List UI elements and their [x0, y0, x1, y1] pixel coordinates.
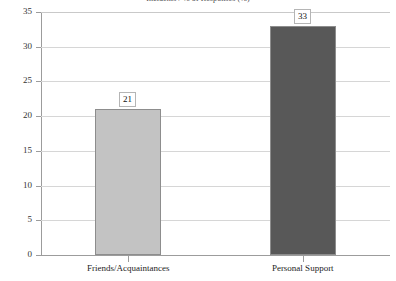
bar-chart: Incidents / % of Responses (%) 051015202…: [0, 0, 396, 281]
bar: [95, 109, 161, 255]
x-tick-label: Friends/Acquaintances: [38, 264, 218, 273]
y-tick-label: 35: [0, 7, 32, 16]
y-tick-label: 25: [0, 76, 32, 85]
bar: [270, 26, 336, 255]
y-tick-mark: [36, 116, 41, 117]
y-tick-label: 15: [0, 146, 32, 155]
y-tick-mark: [36, 12, 41, 13]
x-axis-line: [41, 255, 390, 256]
x-tick-label: Personal Support: [213, 264, 393, 273]
gridline: [41, 220, 390, 221]
bar-value-label: 33: [294, 9, 311, 24]
y-tick-label: 30: [0, 42, 32, 51]
gridline: [41, 81, 390, 82]
chart-title: Incidents / % of Responses (%): [0, 0, 396, 3]
y-tick-label: 20: [0, 111, 32, 120]
y-tick-label: 10: [0, 181, 32, 190]
y-tick-mark: [36, 151, 41, 152]
bar-value-label: 21: [119, 92, 136, 107]
x-tick-mark: [303, 256, 304, 262]
gridline: [41, 47, 390, 48]
y-tick-mark: [36, 47, 41, 48]
y-tick-mark: [36, 220, 41, 221]
gridline: [41, 12, 390, 13]
y-tick-label: 5: [0, 215, 32, 224]
gridline: [41, 151, 390, 152]
y-tick-mark: [36, 255, 41, 256]
y-tick-mark: [36, 186, 41, 187]
gridline: [41, 186, 390, 187]
y-tick-mark: [36, 81, 41, 82]
y-tick-label: 0: [0, 250, 32, 259]
x-tick-mark: [128, 256, 129, 262]
gridline: [41, 116, 390, 117]
